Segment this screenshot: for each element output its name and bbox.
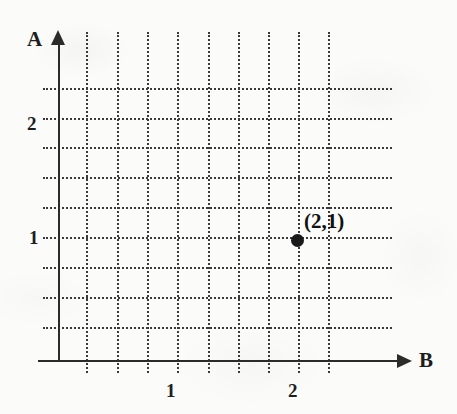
gridline-vertical-7 xyxy=(298,32,300,373)
gridline-horizontal-0 xyxy=(43,88,392,90)
gridline-horizontal-2 xyxy=(43,147,392,149)
gridline-horizontal-6 xyxy=(43,267,392,269)
figure-canvas: A B 2 1 1 2 (2,1) xyxy=(0,0,457,414)
x-axis-arrow-icon xyxy=(397,354,412,368)
x-axis-label: B xyxy=(419,350,433,371)
gridline-vertical-6 xyxy=(268,32,270,373)
x-axis-line xyxy=(38,360,399,362)
y-axis-line xyxy=(58,44,60,362)
gridline-vertical-0 xyxy=(86,32,88,373)
y-tick-label-2: 2 xyxy=(27,114,37,133)
x-tick-label-1: 1 xyxy=(166,381,176,400)
gridline-vertical-2 xyxy=(147,32,149,373)
gridline-horizontal-3 xyxy=(43,177,392,179)
gridline-vertical-3 xyxy=(177,32,179,373)
gridline-vertical-4 xyxy=(208,32,210,373)
y-tick-label-1: 1 xyxy=(29,228,39,247)
gridline-vertical-1 xyxy=(117,32,119,373)
data-point-label: (2,1) xyxy=(304,211,344,232)
gridline-horizontal-1 xyxy=(43,118,392,120)
gridline-vertical-5 xyxy=(238,32,240,373)
gridline-horizontal-5 xyxy=(43,237,392,239)
gridline-horizontal-7 xyxy=(43,297,392,299)
x-tick-label-2: 2 xyxy=(288,381,298,400)
y-axis-label: A xyxy=(27,29,42,50)
gridline-horizontal-8 xyxy=(43,327,392,329)
data-point-marker xyxy=(291,234,304,247)
y-axis-arrow-icon xyxy=(51,30,65,45)
gridline-vertical-8 xyxy=(328,32,330,373)
